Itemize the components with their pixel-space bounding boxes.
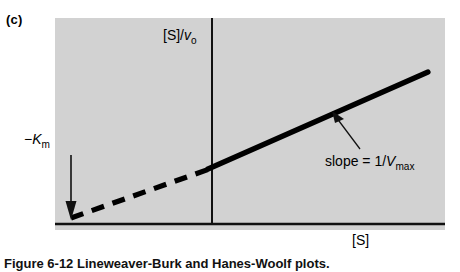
km-subscript: m	[42, 139, 50, 150]
panel-label: (c)	[6, 12, 23, 27]
plot-svg	[55, 18, 445, 230]
slope-subscript: max	[395, 161, 414, 172]
x-axis-label: [S]	[352, 232, 369, 248]
km-variable: K	[32, 131, 41, 147]
y-axis-label-prefix: [S]/	[163, 27, 184, 43]
plot-area	[55, 18, 445, 230]
figure-panel-c: (c) [S]/vo [S] −Km slope = 1/Vmax	[0, 0, 460, 272]
slope-arrow-shaft	[336, 117, 360, 149]
y-axis-label-subscript: o	[191, 35, 197, 46]
y-axis-label: [S]/vo	[163, 27, 197, 46]
y-axis-label-variable: v	[184, 27, 191, 43]
km-annotation-label: −Km	[24, 131, 50, 150]
km-minus-sign: −	[24, 131, 32, 147]
slope-annotation-label: slope = 1/Vmax	[325, 153, 415, 172]
slope-text-prefix: slope = 1/	[325, 153, 386, 169]
dashed-extrapolation-line	[71, 167, 215, 218]
figure-caption: Figure 6-12 Lineweaver-Burk and Hanes-Wo…	[4, 255, 456, 271]
